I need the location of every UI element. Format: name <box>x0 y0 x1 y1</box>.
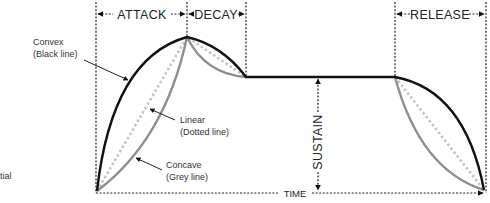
release-label: RELEASE <box>410 8 470 22</box>
concave-curve <box>97 37 484 191</box>
convex-callout-arrow <box>84 60 128 80</box>
decay-label: DECAY <box>194 8 238 22</box>
convex-curve <box>97 37 484 191</box>
convex-label: Convex <box>33 37 64 47</box>
time-label: TIME <box>284 188 307 199</box>
adsr-envelope-diagram: ATTACK DECAY RELEASE TIME SUSTAIN Convex… <box>0 0 490 203</box>
convex-desc: (Black line) <box>33 49 78 59</box>
concave-callout-arrow <box>136 158 162 170</box>
sustain-label: SUSTAIN <box>311 114 325 169</box>
linear-curve <box>97 37 484 191</box>
concave-label: Concave <box>166 160 202 170</box>
linear-label: Linear <box>180 115 205 125</box>
concave-desc: (Grey line) <box>166 172 208 182</box>
clipped-text: tial <box>0 171 12 181</box>
linear-desc: (Dotted line) <box>180 127 229 137</box>
attack-label: ATTACK <box>117 8 167 22</box>
